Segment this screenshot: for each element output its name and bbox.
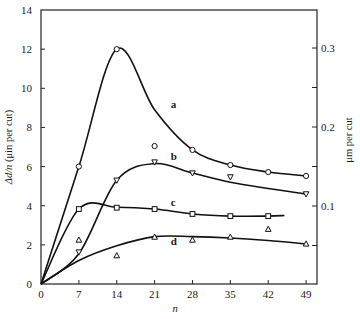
square-marker [114, 205, 119, 210]
y-tick-label: 10 [21, 82, 33, 94]
triangle-marker [76, 237, 82, 242]
inverted-triangle-marker [228, 175, 234, 180]
plot-border [41, 10, 317, 284]
y2-tick-label: 0.1 [321, 200, 335, 212]
curve-b [41, 164, 306, 284]
circle-marker [76, 164, 81, 169]
inverted-triangle-marker [76, 250, 82, 255]
inverted-triangle-marker [303, 192, 309, 197]
triangle-marker [265, 226, 271, 231]
x-tick-label: 0 [38, 288, 44, 300]
y2-tick-label: 0.3 [321, 42, 335, 54]
x-axis-title: n [172, 303, 177, 314]
y-tick-label: 8 [27, 121, 33, 133]
y2-tick-label: 0.2 [321, 121, 335, 133]
triangle-marker [152, 234, 158, 239]
square-marker [228, 214, 233, 219]
y2-axis-title: μm per cut [343, 117, 354, 162]
triangle-marker [190, 237, 196, 242]
x-tick-label: 14 [111, 288, 123, 300]
circle-marker [152, 143, 157, 148]
x-tick-label: 35 [225, 288, 237, 300]
data-markers [76, 47, 309, 258]
x-tick-label: 42 [263, 288, 274, 300]
x-tick-label: 21 [149, 288, 160, 300]
circle-marker [266, 169, 271, 174]
axis-ticks: 07142128354249024681012140.10.20.3 [21, 4, 335, 300]
y-tick-label: 12 [21, 43, 32, 55]
square-marker [76, 207, 81, 212]
y-tick-label: 0 [27, 278, 33, 290]
y-tick-label: 14 [21, 4, 33, 16]
x-tick-label: 49 [301, 288, 313, 300]
square-marker [190, 212, 195, 217]
y-tick-label: 2 [27, 239, 33, 251]
triangle-marker [228, 234, 234, 239]
y-tick-label: 4 [27, 200, 33, 212]
chart: 07142128354249024681012140.10.20.3 abcd … [0, 0, 360, 319]
y-axis-title: Δd/n (μin per cut) [3, 109, 15, 185]
x-tick-label: 28 [187, 288, 199, 300]
curve-label-b: b [171, 150, 177, 162]
y-axis-title-unit: (μin per cut) [3, 109, 15, 164]
square-marker [266, 214, 271, 219]
square-marker [152, 207, 157, 212]
triangle-marker [303, 241, 309, 246]
curve-label-c: c [171, 196, 176, 208]
plot-frame [41, 10, 317, 284]
y-axis-title-symbol: Δd/n [3, 165, 14, 186]
circle-marker [190, 147, 195, 152]
inverted-triangle-marker [190, 171, 196, 176]
triangle-marker [114, 253, 120, 258]
curve-label-d: d [171, 235, 177, 247]
circle-marker [303, 173, 308, 178]
y-tick-label: 6 [27, 161, 33, 173]
circle-marker [114, 47, 119, 52]
x-tick-label: 7 [76, 288, 82, 300]
curve-label-a: a [171, 98, 177, 110]
curve-c [41, 203, 284, 284]
curve-labels: abcd [171, 98, 177, 247]
circle-marker [228, 162, 233, 167]
